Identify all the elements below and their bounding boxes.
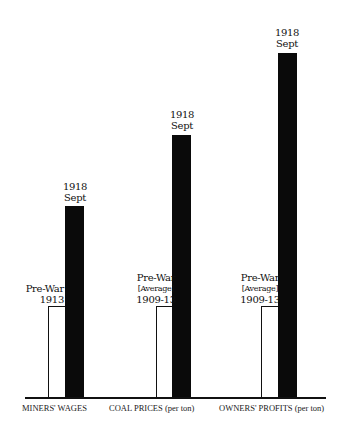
- coal-prices-prewar-label: Pre-War [Average] 1909-13: [134, 272, 178, 305]
- miners-wages-prewar-label: Pre-War 1913: [20, 283, 64, 305]
- label-line: 1909-13: [134, 294, 178, 305]
- label-line: Sept: [58, 192, 92, 203]
- coal-prices-prewar-bar: [156, 306, 173, 398]
- category-label-coal-prices: COAL PRICES (per ton): [109, 403, 194, 413]
- label-line: [Average]: [134, 283, 178, 294]
- category-label-miners-wages: MINERS' WAGES: [22, 403, 87, 413]
- bar-chart: Pre-War 1913 1918 Sept MINERS' WAGES Pre…: [0, 0, 355, 437]
- category-label-owners-profits: OWNERS' PROFITS (per ton): [219, 403, 324, 413]
- miners-wages-1918-bar: [65, 206, 84, 398]
- x-axis-baseline: [25, 397, 326, 399]
- coal-prices-1918-label: 1918 Sept: [165, 109, 199, 131]
- label-line: [Average]: [238, 283, 282, 294]
- owners-profits-prewar-label: Pre-War [Average] 1909-13: [238, 272, 282, 305]
- coal-prices-1918-bar: [172, 135, 191, 398]
- label-line: Pre-War: [20, 283, 64, 294]
- label-line: Pre-War: [134, 272, 178, 283]
- owners-profits-1918-label: 1918 Sept: [270, 27, 304, 49]
- miners-wages-1918-label: 1918 Sept: [58, 181, 92, 203]
- owners-profits-1918-bar: [278, 53, 297, 398]
- label-line: 1918: [270, 27, 304, 38]
- label-line: Pre-War: [238, 272, 282, 283]
- miners-wages-prewar-bar: [48, 306, 66, 398]
- label-line: 1918: [58, 181, 92, 192]
- label-line: 1913: [20, 294, 64, 305]
- label-line: Sept: [270, 38, 304, 49]
- label-line: Sept: [165, 120, 199, 131]
- label-line: 1909-13: [238, 294, 282, 305]
- label-line: 1918: [165, 109, 199, 120]
